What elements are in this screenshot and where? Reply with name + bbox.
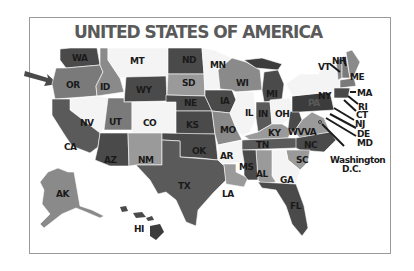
label-ia: IA [220,96,230,106]
label-ok: OK [192,146,207,156]
label-nv: NV [80,118,94,128]
label-va: VA [304,127,317,137]
label-wy: WY [136,85,152,95]
label-nh: NH [332,56,346,66]
state-tn[interactable] [242,138,300,150]
label-wa: WA [72,53,88,63]
label-nc: NC [304,140,318,150]
label-ca: CA [64,142,77,152]
label-mi: MI [266,89,277,99]
label-ut: UT [109,117,123,127]
label-wi: WI [236,78,248,88]
state-ak[interactable] [40,168,104,228]
label-al: AL [256,169,268,179]
label-oh: OH [275,109,289,119]
leader-de [330,114,356,128]
label-or: OR [66,80,80,90]
label-sc: SC [296,155,309,165]
label-tx: TX [178,181,191,191]
label-md: MD [357,138,372,148]
label-ms: MS [239,162,253,172]
state-hi-3[interactable] [146,216,154,221]
label-fl: FL [290,201,302,211]
state-hi-4[interactable] [150,224,164,240]
label-ar: AR [220,151,233,161]
label-az: AZ [104,155,117,165]
label-id: ID [100,82,110,92]
label-hi: HI [134,224,144,234]
label-in: IN [258,109,268,119]
label-nm: NM [138,155,154,165]
label-ky: KY [268,128,281,138]
label-ak: AK [56,189,70,199]
us-map: WA OR ID MT WY ND SD NE KS MN IA MO WI I… [0,0,414,271]
label-la: LA [222,189,234,199]
state-hi-2[interactable] [133,212,146,218]
label-mo: MO [220,125,236,135]
label-ny: NY [318,91,332,101]
label-ks: KS [186,120,198,130]
label-wv: WV [288,127,304,137]
label-ga: GA [280,175,294,185]
label-ne: NE [184,98,197,108]
label-tn: TN [256,140,269,150]
label-mt: MT [130,56,145,66]
label-sd: SD [182,78,195,88]
label-nd: ND [182,55,196,65]
label-il: IL [245,108,254,118]
state-hi-1[interactable] [120,206,128,212]
label-ma: MA [357,88,372,98]
label-me: ME [350,72,364,82]
label-nj: NJ [355,119,365,129]
label-co: CO [143,118,157,128]
label-mn: MN [210,60,226,70]
label-dc-line2: D.C. [342,164,361,174]
label-vt: VT [318,62,331,72]
